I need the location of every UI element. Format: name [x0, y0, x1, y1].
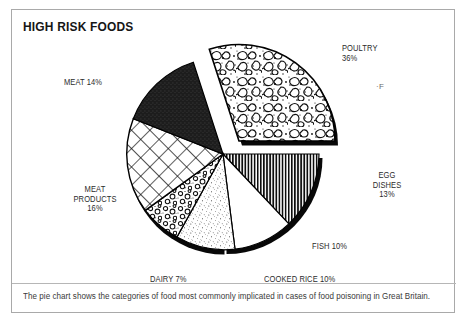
label-egg-dishes: EGG DISHES 13% — [361, 171, 413, 200]
label-meat: MEAT 14% — [64, 78, 102, 88]
label-fish: FISH 10% — [312, 242, 347, 252]
chart-card: HIGH RISK FOODS — [11, 9, 455, 313]
slice-poultry[interactable] — [209, 44, 335, 141]
caption-divider — [12, 283, 456, 284]
label-meat-products: MEAT PRODUCTS 16% — [62, 185, 128, 214]
chart-caption: The pie chart shows the categories of fo… — [23, 291, 430, 302]
stray-mark: ·F — [376, 82, 384, 91]
pie-chart — [12, 10, 456, 314]
label-poultry: POULTRY 36% — [342, 44, 378, 63]
slice-poultry-group[interactable] — [209, 44, 338, 145]
